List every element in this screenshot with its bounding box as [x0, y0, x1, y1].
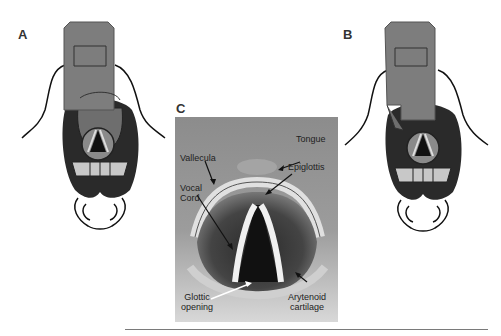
laryngoscope-illustration-a [20, 20, 170, 235]
bottom-divider [125, 329, 488, 330]
label-vocal-cord: Vocal Cord [180, 183, 202, 203]
label-arytenoid-cartilage: Arytenoid cartilage [288, 292, 326, 312]
label-epiglottis: Epiglottis [288, 162, 325, 172]
label-vocal-cord-line2: Cord [180, 193, 202, 203]
label-vallecula: Vallecula [180, 153, 216, 163]
label-arytenoid-line1: Arytenoid [288, 292, 326, 302]
laryngoscope-illustration-b [343, 20, 493, 235]
label-glottic-opening: Glottic opening [181, 292, 213, 312]
label-glottic-opening-line2: opening [181, 302, 213, 312]
label-tongue: Tongue [296, 134, 326, 144]
label-glottic-opening-line1: Glottic [181, 292, 213, 302]
panel-c-label: C [176, 101, 185, 116]
label-vocal-cord-line1: Vocal [180, 183, 202, 193]
label-arytenoid-line2: cartilage [288, 302, 326, 312]
